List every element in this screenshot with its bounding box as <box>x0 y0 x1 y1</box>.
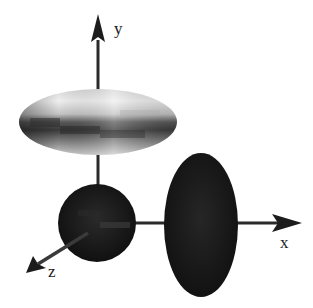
z-axis-label: z <box>48 263 56 280</box>
tall-ellipsoid <box>164 153 238 297</box>
y-axis-arrowhead-icon <box>91 14 105 42</box>
axes-diagram <box>0 0 313 308</box>
sphere <box>58 184 136 262</box>
y-axis-label: y <box>114 20 123 37</box>
x-axis-label: x <box>280 234 289 251</box>
figure-canvas: y x z <box>0 0 313 308</box>
flattened-ellipsoid <box>19 89 177 155</box>
z-axis-arrowhead-icon <box>26 256 46 273</box>
